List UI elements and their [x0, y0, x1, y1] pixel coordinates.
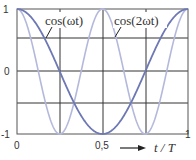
- annotation-cos-2wt: cos(2ωt): [114, 13, 159, 28]
- x-tick-0-5: 0,5: [95, 140, 109, 151]
- annotation-leader: [46, 27, 52, 38]
- x-axis-label: t / T: [154, 140, 176, 155]
- y-tick-1: 1: [3, 4, 9, 15]
- arrow-right-icon: [120, 145, 146, 151]
- x-tick-0: 0: [14, 140, 20, 151]
- x-tick-1: 1: [185, 129, 191, 140]
- chart: cos(ωt) cos(2ωt) 1 0 -1 0 0,5 1 t / T: [0, 0, 196, 160]
- annotation-leader: [115, 27, 121, 37]
- y-tick-0: 0: [4, 66, 10, 77]
- annotation-cos-wt: cos(ωt): [45, 13, 83, 28]
- y-tick-neg1: -1: [1, 129, 10, 140]
